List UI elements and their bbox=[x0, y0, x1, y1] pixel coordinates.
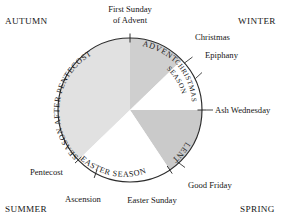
corner-label-spring: SPRING bbox=[240, 204, 275, 214]
leader-epiphany bbox=[196, 73, 203, 79]
liturgical-year-diagram: AUTUMN WINTER SUMMER SPRING First Sunday… bbox=[0, 0, 299, 218]
event-label-christmas: Christmas bbox=[195, 32, 231, 42]
event-label-first-sunday-of-advent-line2: of Advent bbox=[113, 15, 148, 25]
event-label-ascension: Ascension bbox=[65, 194, 102, 204]
corner-label-autumn: AUTUMN bbox=[5, 16, 47, 26]
leader-christmas bbox=[185, 57, 193, 63]
event-label-pentecost: Pentecost bbox=[30, 167, 64, 177]
event-label-first-sunday-of-advent-line1: First Sunday bbox=[108, 4, 152, 14]
corner-label-summer: SUMMER bbox=[5, 204, 47, 214]
event-label-epiphany: Epiphany bbox=[205, 50, 239, 60]
event-label-ash-wednesday: Ash Wednesday bbox=[215, 105, 271, 115]
event-label-good-friday: Good Friday bbox=[188, 180, 232, 190]
event-label-easter-sunday: Easter Sunday bbox=[127, 195, 177, 205]
liturgical-wheel-svg: AUTUMN WINTER SUMMER SPRING First Sunday… bbox=[0, 0, 299, 218]
corner-label-winter: WINTER bbox=[238, 16, 276, 26]
